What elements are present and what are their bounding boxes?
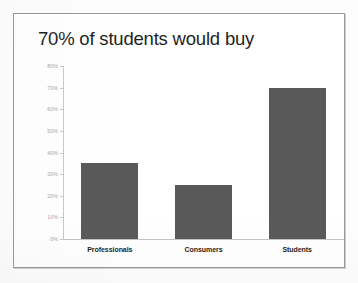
y-axis-tick-label: 60%	[47, 106, 58, 112]
bar-consumers	[175, 185, 232, 239]
y-axis-tick	[60, 109, 64, 110]
y-axis-tick-label: 10%	[47, 214, 58, 220]
y-axis-tick-label: 0%	[50, 236, 58, 242]
y-axis-tick	[60, 66, 64, 67]
y-axis-tick-label: 50%	[47, 128, 58, 134]
y-axis-tick	[60, 174, 64, 175]
y-axis-tick-label: 20%	[47, 193, 58, 199]
bar-students	[269, 88, 326, 239]
y-axis-tick	[60, 153, 64, 154]
chart-title: 70% of students would buy	[38, 28, 254, 50]
y-axis-tick-label: 40%	[47, 150, 58, 156]
chart-plot-area: 0%10%20%30%40%50%60%70%80% Professionals…	[63, 66, 346, 239]
x-axis-line	[63, 239, 344, 240]
category-label-professionals: Professionals	[87, 246, 132, 253]
y-axis-tick	[60, 196, 64, 197]
category-label-students: Students	[282, 246, 312, 253]
y-axis-tick	[60, 88, 64, 89]
slide-frame: 70% of students would buy 0%10%20%30%40%…	[13, 13, 345, 268]
category-label-consumers: Consumers	[184, 246, 222, 253]
y-axis-tick	[60, 131, 64, 132]
y-axis-tick-label: 70%	[47, 85, 58, 91]
y-axis-tick	[60, 217, 64, 218]
y-axis-tick-label: 80%	[47, 63, 58, 69]
scanned-page-background: 70% of students would buy 0%10%20%30%40%…	[0, 0, 358, 283]
y-axis-tick-label: 30%	[47, 171, 58, 177]
bar-professionals	[81, 163, 138, 239]
y-axis-tick	[60, 239, 64, 240]
